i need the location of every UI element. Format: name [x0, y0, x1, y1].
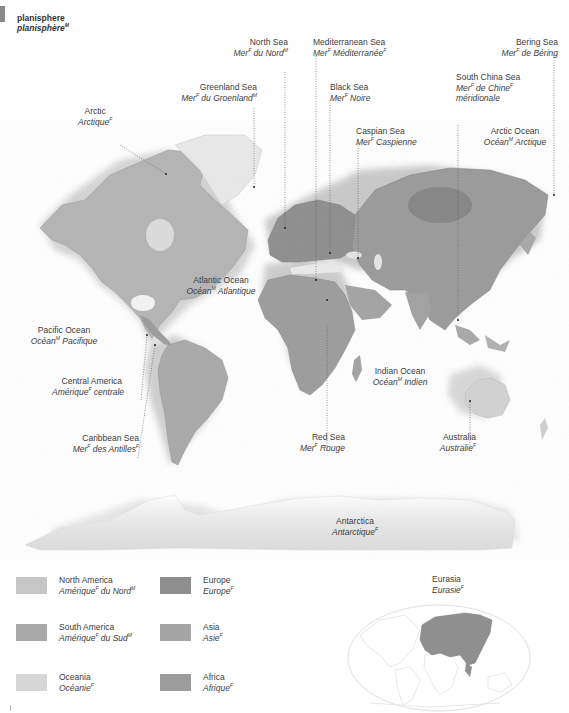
label-pacific-ocean: Pacific Ocean OcéanM Pacifique [30, 325, 98, 346]
legend-swatch [16, 674, 47, 691]
inset-title: Eurasia EurasieF [432, 574, 464, 595]
legend-item-oceania: Oceania OcéanieF [16, 672, 94, 693]
label-caspian-sea: Caspian Sea MerF Caspienne [356, 126, 417, 147]
label-indian-ocean: Indian Ocean OcéanM Indien [370, 366, 430, 387]
legend-swatch [16, 624, 47, 641]
label-mediterranean-sea: Mediterranean Sea MerF MéditerranéeF [313, 37, 386, 58]
legend-swatch [160, 674, 191, 691]
label-bering-sea: Bering Sea MerF de Béring [490, 37, 558, 58]
label-north-sea: North Sea MerF du NordM [220, 37, 288, 58]
legend-item-europe: Europe EuropeF [160, 575, 233, 596]
legend-swatch [16, 577, 47, 594]
page-tick-mark [10, 705, 11, 711]
label-arctic-ocean: Arctic Ocean OcéanM Arctique [470, 126, 560, 147]
legend-item-south-america: South America AmériqueF du SudM [16, 622, 132, 643]
label-arctic: Arctic ArctiqueF [78, 106, 112, 127]
label-antarctica: Antarctica AntarctiqueF [325, 516, 385, 537]
legend-item-africa: Africa AfriqueF [160, 672, 233, 693]
eurasia-inset-map [340, 595, 538, 713]
label-australia: Australia AustralieF [432, 432, 476, 453]
label-south-china-sea: South China Sea MerF de ChineF méridiona… [456, 72, 520, 104]
label-atlantic-ocean: Atlantic Ocean OcéanM Atlantique [178, 275, 264, 296]
label-central-america: Central America AmériqueF centrale [52, 376, 122, 397]
legend-item-north-america: North America AmériqueF du NordM [16, 575, 135, 596]
world-map: Arctic ArctiqueF Greenland Sea MerF du G… [0, 0, 569, 560]
legend-swatch [160, 624, 191, 641]
label-black-sea: Black Sea MerF Noire [330, 82, 370, 103]
legend-item-asia: Asia AsieF [160, 622, 223, 643]
label-red-sea: Red Sea MerF Rouge [290, 432, 345, 453]
label-greenland-sea: Greenland Sea MerF du GroenlandM [168, 82, 257, 103]
legend-swatch [160, 577, 191, 594]
label-caribbean-sea: Caribbean Sea MerF des AntillesF [68, 433, 139, 454]
